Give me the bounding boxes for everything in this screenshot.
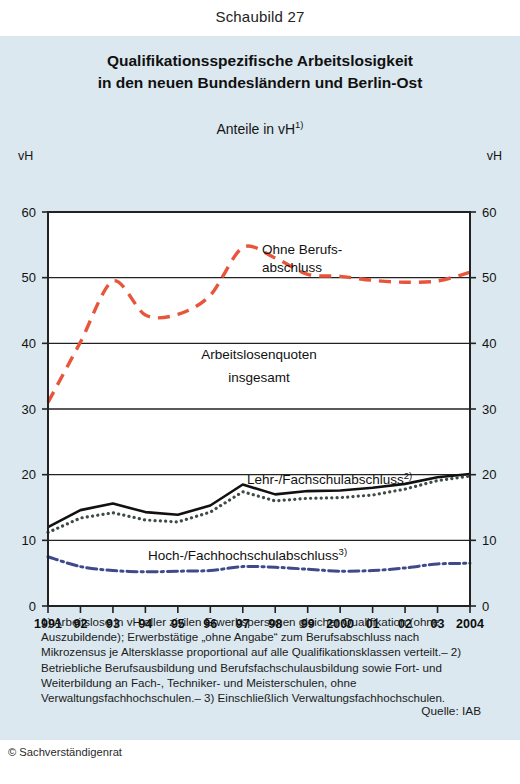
y-tick-label-right: 50 [482,270,496,285]
series-label-hoch-fachhoch-text: Hoch-/Fachhochschulabschluss [148,548,339,563]
series-label-lehr-fachschul-footnote-ref: 2) [404,470,412,481]
chart-subtitle-footnote-ref: 1) [295,119,303,130]
y-axis-right-ticklabels: 0102030405060 [470,205,496,614]
figure-page: Schaubild 27 Qualifikationsspezifische A… [0,0,520,784]
chart-title: Qualifikationsspezifische Arbeitslosigke… [0,50,520,94]
y-tick-label-right: 30 [482,402,496,417]
series-label-insgesamt-line2: insgesamt [228,370,290,385]
y-tick-label-left: 10 [22,533,36,548]
footnotes: 1) Arbeitslose in vH aller zivilen Erwer… [41,614,481,705]
chart-svg: 0102030405060 0102030405060 199192939495… [0,132,520,642]
source-note: Quelle: IAB [421,704,481,718]
y-tick-label-right: 20 [482,467,496,482]
y-tick-label-left: 20 [22,467,36,482]
series-label-ohne-berufsabschluss-line1: Ohne Berufs- [262,242,342,257]
y-tick-label-left: 40 [22,336,36,351]
chart-title-line2: in den neuen Bundesländern und Berlin-Os… [0,72,520,94]
chart-title-line1: Qualifikationsspezifische Arbeitslosigke… [107,52,413,69]
y-tick-label-right: 0 [482,599,489,614]
y-tick-label-left: 50 [22,270,36,285]
figure-number: Schaubild 27 [0,8,520,25]
series-label-insgesamt-line1: Arbeitslosenquoten [201,347,317,362]
series-label-lehr-fachschul-text: Lehr-/Fachschulabschluss [247,472,404,487]
copyright-note: © Sachverständigenrat [8,746,122,758]
chart-panel: Qualifikationsspezifische Arbeitslosigke… [0,36,520,740]
series-label-lehr-fachschul: Lehr-/Fachschulabschluss2) [247,470,412,487]
y-tick-label-right: 60 [482,205,496,220]
y-tick-label-right: 10 [482,533,496,548]
plot-area: 0102030405060 0102030405060 199192939495… [0,132,520,642]
series-label-ohne-berufsabschluss-line2: abschluss [262,260,322,275]
y-tick-label-left: 0 [29,599,36,614]
y-axis-left-ticklabels: 0102030405060 [22,205,48,614]
y-tick-label-left: 30 [22,402,36,417]
y-tick-label-right: 40 [482,336,496,351]
series-label-hoch-fachhoch-footnote-ref: 3) [339,546,347,557]
y-tick-label-left: 60 [22,205,36,220]
series-label-hoch-fachhoch: Hoch-/Fachhochschulabschluss3) [148,546,347,563]
